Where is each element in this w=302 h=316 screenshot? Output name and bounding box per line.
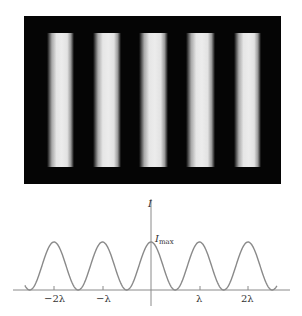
intensity-graph: I Imax −2λ −λ λ 2λ <box>0 190 302 316</box>
imax-subscript: max <box>159 238 174 246</box>
bright-fringe <box>93 33 121 167</box>
bright-fringe <box>186 33 215 167</box>
tick-label-minus-lambda: −λ <box>96 294 111 304</box>
peak-label-imax: Imax <box>155 229 174 245</box>
bright-fringe <box>47 33 74 167</box>
tick-label-lambda: λ <box>196 294 202 304</box>
interference-fringe-photo <box>24 16 281 184</box>
tick-label-minus-2-lambda: −2λ <box>44 294 65 304</box>
y-axis-label: I <box>148 199 152 209</box>
bright-fringe <box>139 33 168 167</box>
bright-fringe <box>234 33 261 167</box>
tick-label-2-lambda: 2λ <box>241 294 254 304</box>
